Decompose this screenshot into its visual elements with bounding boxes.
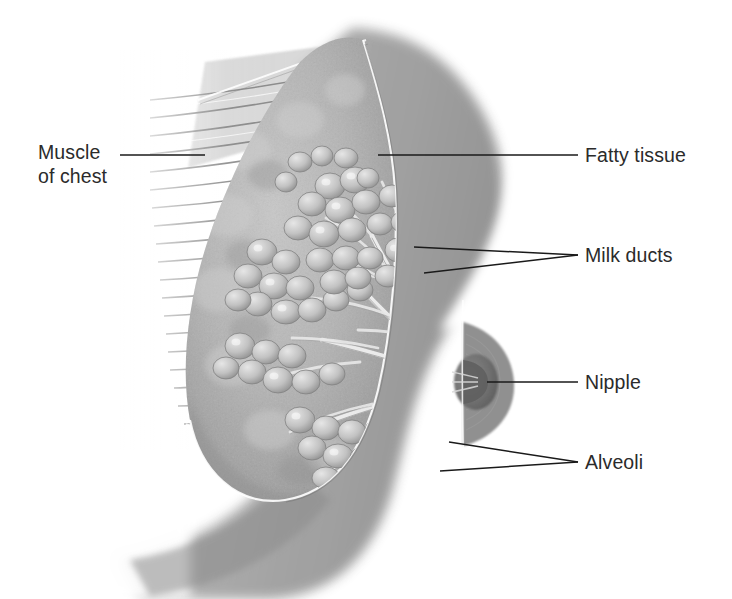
breast-anatomy-figure: Muscle of chest Fatty tissue Milk ducts … bbox=[0, 0, 732, 599]
label-fatty-tissue: Fatty tissue bbox=[585, 144, 686, 166]
label-alveoli: Alveoli bbox=[585, 451, 643, 473]
label-muscle-of-chest-line2: of chest bbox=[38, 165, 108, 187]
label-muscle-of-chest-line1: Muscle bbox=[38, 141, 100, 163]
label-milk-ducts: Milk ducts bbox=[585, 244, 673, 266]
label-nipple: Nipple bbox=[585, 371, 641, 393]
